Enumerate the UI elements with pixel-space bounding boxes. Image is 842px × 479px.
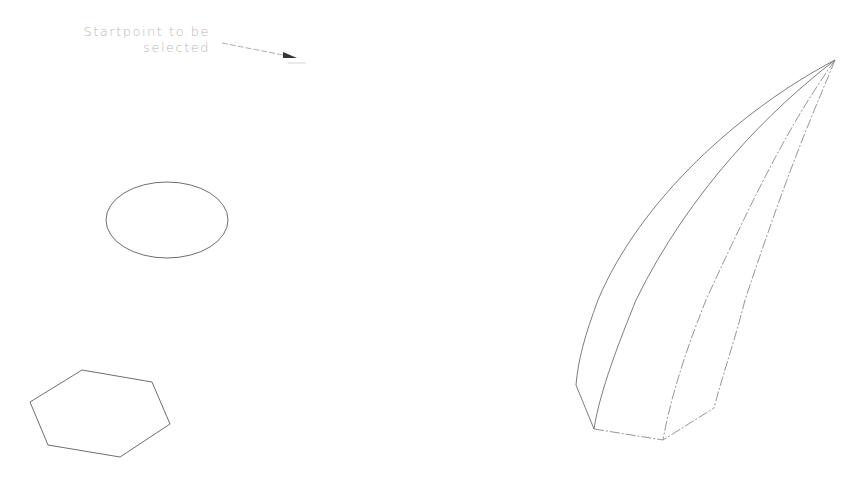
drawing-canvas[interactable]: Startpoint to be selected: [0, 0, 842, 479]
loft-solid[interactable]: [576, 60, 835, 440]
drawing-svg: [0, 0, 842, 479]
ellipse-profile[interactable]: [106, 182, 228, 258]
leader-arrow: [222, 43, 306, 63]
hexagon-profile[interactable]: [30, 370, 170, 457]
